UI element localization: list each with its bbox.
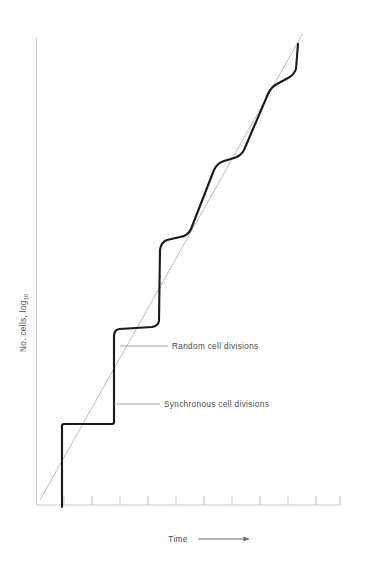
x-axis-label-text: Time [168, 535, 187, 544]
right-arrow-icon [198, 537, 249, 542]
y-axis-label-text: No. cells, log10 [19, 294, 29, 352]
chart-svg: Random cell divisions Synchronous cell d… [0, 0, 371, 562]
annotation-synchronous-cell-divisions: Synchronous cell divisions [114, 400, 269, 409]
x-axis-ticks [64, 496, 340, 505]
y-axis-label-main: No. cells, log [19, 300, 28, 352]
annotation-label-random: Random cell divisions [172, 342, 259, 351]
axis-group [37, 38, 341, 505]
x-axis-label-group: Time [168, 535, 249, 544]
annotation-label-synchronous: Synchronous cell divisions [164, 400, 269, 409]
annotation-random-cell-divisions: Random cell divisions [120, 342, 259, 351]
synchronous-divisions-curve [62, 44, 298, 507]
y-axis-label: No. cells, log10 [19, 294, 29, 352]
y-axis-label-subscript: 10 [23, 294, 29, 301]
growth-curve-figure: Random cell divisions Synchronous cell d… [0, 0, 371, 562]
